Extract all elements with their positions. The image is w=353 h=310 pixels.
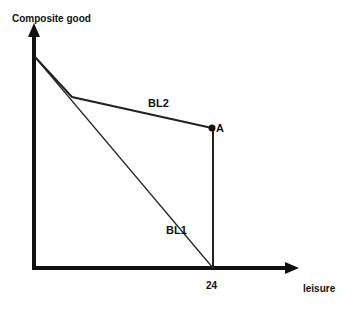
budget-line-bl2 (35, 57, 212, 128)
budget-line-bl1 (35, 57, 213, 268)
x-tick-label: 24 (206, 280, 217, 291)
x-axis-label: leisure (303, 283, 335, 294)
point-a-label: A (216, 122, 224, 134)
budget-line-diagram (0, 0, 353, 310)
point-a (209, 125, 216, 132)
x-axis-arrow-icon (285, 262, 299, 274)
y-axis-label: Composite good (12, 13, 91, 24)
bl2-label: BL2 (148, 97, 169, 109)
bl1-label: BL1 (166, 224, 187, 236)
y-axis-arrow-icon (28, 23, 40, 37)
